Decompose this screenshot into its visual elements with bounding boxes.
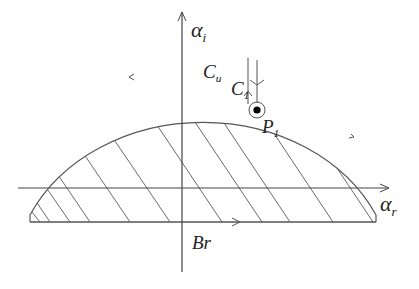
contour-arc-cu xyxy=(30,122,376,222)
alpha-r-label: αr xyxy=(380,193,397,218)
arc-arrow-right-icon xyxy=(349,134,354,138)
contour-diagram: αi αr Cu C1 P1 Br xyxy=(0,0,419,289)
branch-br-label: Br xyxy=(192,233,211,252)
pole-p1-marker xyxy=(253,106,260,113)
contour-cu-label: Cu xyxy=(203,62,221,84)
contour-c1-label: C1 xyxy=(231,79,249,101)
alpha-i-label: αi xyxy=(191,19,206,44)
pole-p1-label: P1 xyxy=(262,117,279,139)
arc-arrow-left-icon xyxy=(129,74,134,80)
